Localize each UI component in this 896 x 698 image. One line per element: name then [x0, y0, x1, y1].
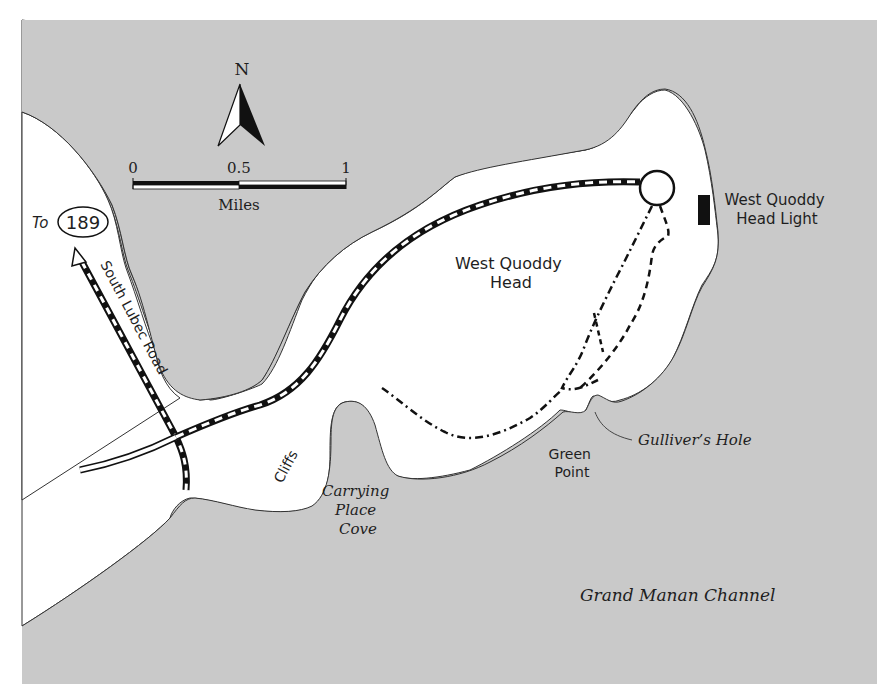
north-label: N [235, 59, 250, 79]
lighthouse-icon[interactable] [698, 195, 710, 225]
label-lighthouse: West Quoddy Head Light [725, 191, 830, 228]
label-gullivers-hole: Gulliver’s Hole [638, 431, 752, 449]
parking-circle[interactable] [640, 171, 674, 205]
route-number: 189 [66, 212, 100, 233]
scale-tick-1: 1 [341, 159, 351, 177]
scale-tick-0: 0 [128, 159, 138, 177]
route-prefix: To [32, 214, 49, 232]
scale-tick-half: 0.5 [227, 159, 251, 177]
scale-unit: Miles [218, 196, 260, 214]
park-map: N 0 0.5 1 Miles To 189 South Lubec Road … [0, 0, 896, 698]
label-grand-manan-channel: Grand Manan Channel [580, 585, 776, 605]
